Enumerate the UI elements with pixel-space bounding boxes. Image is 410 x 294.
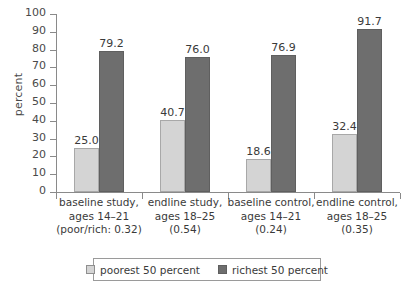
bar-value-label: 18.6 xyxy=(246,145,271,158)
y-tick xyxy=(50,121,56,122)
bar-richest: 76.0 xyxy=(185,57,210,192)
legend-swatch-richest-icon xyxy=(218,265,227,274)
y-tick-label: 30 xyxy=(8,131,46,144)
y-tick-label: 40 xyxy=(8,113,46,126)
y-tick xyxy=(50,67,56,68)
bar-value-label: 79.2 xyxy=(99,37,124,50)
y-tick xyxy=(50,156,56,157)
y-tick-label: 80 xyxy=(8,42,46,55)
y-tick xyxy=(50,103,56,104)
y-tick-label: 60 xyxy=(8,77,46,90)
legend-label-poorest: poorest 50 percent xyxy=(100,264,200,276)
bar-richest: 91.7 xyxy=(357,29,382,192)
category-label-line: (0.35) xyxy=(297,223,410,237)
legend-item-richest: richest 50 percent xyxy=(218,264,328,276)
y-tick-label: 50 xyxy=(8,95,46,108)
chart-legend: poorest 50 percent richest 50 percent xyxy=(93,258,321,281)
bar-poorest: 32.4 xyxy=(332,134,357,192)
y-tick-label: 70 xyxy=(8,59,46,72)
bar-richest: 79.2 xyxy=(99,51,124,192)
bar-poorest: 18.6 xyxy=(246,159,271,192)
y-tick xyxy=(50,50,56,51)
y-tick-label: 90 xyxy=(8,24,46,37)
y-tick xyxy=(50,85,56,86)
y-tick xyxy=(50,32,56,33)
category-label-line: endline control, xyxy=(297,196,410,210)
bar-chart: percent 0102030405060708090100 25.079.24… xyxy=(0,0,410,294)
plot-area: 0102030405060708090100 25.079.240.776.01… xyxy=(56,14,400,192)
bar-value-label: 76.0 xyxy=(185,43,210,56)
y-tick-label: 10 xyxy=(8,166,46,179)
y-tick xyxy=(50,174,56,175)
bar-value-label: 32.4 xyxy=(332,120,357,133)
bar-value-label: 40.7 xyxy=(160,106,185,119)
legend-swatch-poorest-icon xyxy=(86,265,95,274)
category-label-line: ages 18–25 xyxy=(297,210,410,224)
bar-poorest: 25.0 xyxy=(74,148,99,193)
legend-item-poorest: poorest 50 percent xyxy=(86,264,200,276)
legend-label-richest: richest 50 percent xyxy=(232,264,328,276)
bar-value-label: 76.9 xyxy=(271,41,296,54)
y-tick-label: 20 xyxy=(8,148,46,161)
y-tick-label: 100 xyxy=(8,6,46,19)
y-tick xyxy=(50,14,56,15)
bar-richest: 76.9 xyxy=(271,55,296,192)
bar-value-label: 91.7 xyxy=(357,15,382,28)
y-tick xyxy=(50,139,56,140)
bar-value-label: 25.0 xyxy=(74,134,99,147)
y-axis-line xyxy=(56,14,57,193)
bar-poorest: 40.7 xyxy=(160,120,185,192)
category-label: endline control,ages 18–25(0.35) xyxy=(297,196,410,237)
